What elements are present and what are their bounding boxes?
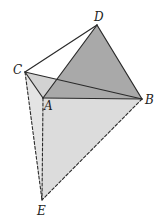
label-point-c: C (13, 63, 22, 77)
label-point-e: E (36, 204, 46, 218)
label-point-b: B (144, 93, 154, 107)
geometry-figure: A B C D E (0, 0, 166, 224)
label-point-d: D (93, 10, 104, 24)
label-point-a: A (43, 99, 53, 113)
